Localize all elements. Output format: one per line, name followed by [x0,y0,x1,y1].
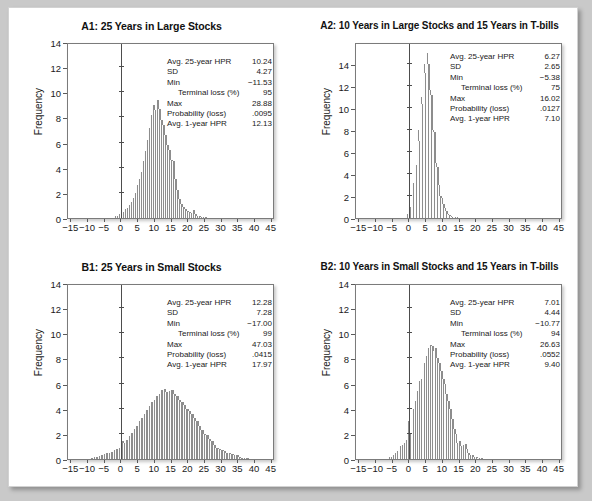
stat-value-max: 26.63 [540,340,560,350]
x-tick-mark [392,460,393,463]
y-tick-label: 0 [39,455,61,466]
x-tick-label: 25 [199,463,210,474]
y-tick-mark [63,309,67,310]
x-tick-mark [237,460,238,463]
x-tick-label: 40 [249,463,260,474]
stat-value-avg1: 9.40 [544,360,560,370]
stat-label-avg25: Avg. 25-year HPR [450,298,514,308]
y-tick-mark [351,65,355,66]
x-tick-mark [358,219,359,222]
x-tick-label: 10 [149,463,160,474]
panel-a1-stats: Avg. 25-year HPR10.24 SD4.27 Min−11.53 T… [167,57,272,130]
panel-a2-stats: Avg. 25-year HPR6.27 SD2.65 Min−5.38 Ter… [450,52,560,125]
x-tick-mark [559,219,560,222]
x-tick-label: −10 [79,222,95,233]
y-tick-mark [63,284,67,285]
x-tick-mark [459,219,460,222]
x-tick-mark [187,460,188,463]
x-tick-label: −10 [367,463,383,474]
y-tick-mark [63,334,67,335]
y-tick-mark [351,309,355,310]
stat-value-terminal-loss: 99 [263,329,272,339]
stat-value-probability-loss: .0095 [252,109,272,119]
stat-value-min: −5.38 [540,73,560,83]
x-tick-mark [120,219,121,222]
x-tick-label: 0 [406,222,411,233]
y-tick-label: 6 [327,148,349,159]
panel-a1-title: A1: 25 Years in Large Stocks [9,20,294,32]
stat-label-avg1: Avg. 1-year HPR [167,119,227,129]
x-tick-label: −5 [98,463,109,474]
stat-value-avg25: 7.01 [544,298,560,308]
panel-b2-plot: 02468101214 Avg. 25-year HPR7.01 SD4.44 … [355,284,562,460]
x-tick-mark [137,460,138,463]
x-tick-label: 45 [553,222,564,233]
x-tick-mark [104,460,105,463]
axis-tick-inner [407,408,412,409]
axis-tick-inner [407,151,412,152]
stat-label-terminal-loss: Terminal loss (%) [178,88,239,98]
y-tick-mark [351,435,355,436]
x-tick-mark [475,460,476,463]
stat-label-probability-loss: Probability (loss) [167,350,226,360]
stat-label-sd: SD [450,62,461,72]
panel-b2: B2: 10 Years in Small Stocks and 15 Year… [297,251,582,491]
stat-value-max: 16.02 [540,94,560,104]
x-tick-label: 15 [165,222,176,233]
axis-tick-inner [407,195,412,196]
x-tick-label: 20 [470,463,481,474]
x-tick-label: −15 [350,463,366,474]
y-tick-label: 12 [327,304,349,315]
panel-b2-title: B2: 10 Years in Small Stocks and 15 Year… [297,261,582,272]
stat-label-probability-loss: Probability (loss) [450,104,509,114]
x-tick-mark [204,460,205,463]
stat-label-probability-loss: Probability (loss) [167,109,226,119]
stat-value-max: 47.03 [252,340,272,350]
stat-label-max: Max [167,99,182,109]
x-tick-mark [425,219,426,222]
stat-value-avg1: 17.97 [252,360,272,370]
axis-tick-inner [119,433,124,434]
panel-b2-stats: Avg. 25-year HPR7.01 SD4.44 Min−10.77 Te… [450,298,560,371]
y-tick-label: 10 [327,329,349,340]
x-tick-label: 30 [215,463,226,474]
y-tick-mark [63,118,67,119]
x-tick-label: 10 [149,222,160,233]
x-tick-mark [171,460,172,463]
x-tick-mark [392,219,393,222]
panel-a2-xaxis: −15−10−5051015202530354045 [355,219,562,235]
x-tick-label: −15 [62,222,78,233]
axis-tick-inner [119,408,124,409]
y-tick-mark [63,385,67,386]
panel-b2-xaxis: −15−10−5051015202530354045 [355,460,562,476]
x-tick-mark [204,219,205,222]
y-tick-mark [351,153,355,154]
x-tick-label: −5 [386,463,397,474]
x-tick-label: 5 [134,222,139,233]
x-tick-mark [120,460,121,463]
stat-value-terminal-loss: 94 [551,329,560,339]
x-tick-mark [525,460,526,463]
x-tick-label: 15 [165,463,176,474]
stat-label-min: Min [450,73,463,83]
y-tick-mark [63,359,67,360]
y-tick-mark [63,410,67,411]
y-tick-mark [351,359,355,360]
stat-value-terminal-loss: 95 [263,88,272,98]
stat-value-min: −17.00 [247,319,272,329]
y-tick-label: 2 [327,192,349,203]
x-tick-mark [358,460,359,463]
axis-tick-inner [119,66,124,67]
y-tick-label: 8 [327,354,349,365]
axis-tick-inner [119,116,124,117]
x-tick-label: 5 [134,463,139,474]
y-tick-mark [351,410,355,411]
stat-label-min: Min [167,78,180,88]
axis-tick-inner [119,91,124,92]
axis-tick-inner [407,307,412,308]
panel-a2: A2: 10 Years in Large Stocks and 15 Year… [297,10,582,250]
x-tick-mark [271,460,272,463]
stat-label-max: Max [167,340,182,350]
stat-value-probability-loss: .0552 [540,350,560,360]
y-tick-label: 0 [39,214,61,225]
